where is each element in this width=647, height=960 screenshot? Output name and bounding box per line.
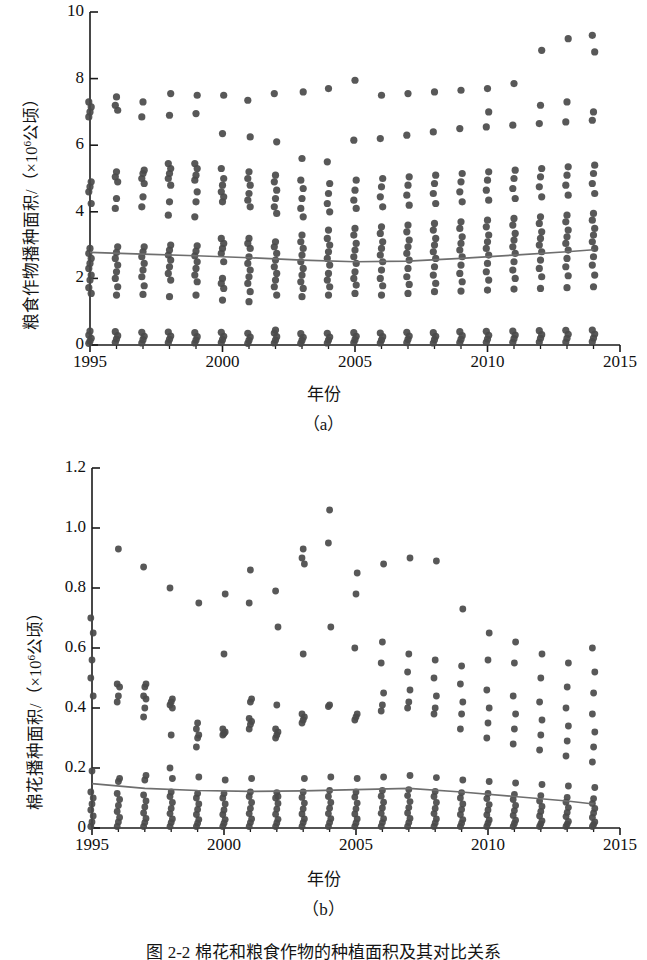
data-point: [565, 163, 572, 170]
data-point: [563, 98, 570, 105]
data-point: [431, 242, 438, 249]
data-point: [456, 225, 463, 232]
data-point: [195, 732, 202, 739]
data-point: [432, 255, 439, 262]
data-point: [433, 693, 440, 700]
data-point: [218, 329, 225, 336]
data-point: [325, 270, 332, 277]
data-point: [140, 792, 147, 799]
data-point: [218, 188, 225, 195]
data-point: [354, 800, 361, 807]
data-point: [248, 775, 255, 782]
data-point: [272, 726, 279, 733]
data-point: [378, 793, 385, 800]
data-point: [537, 235, 544, 242]
data-point: [432, 280, 439, 287]
data-point: [353, 805, 360, 812]
data-point: [379, 805, 386, 812]
data-point: [510, 741, 517, 748]
data-point: [167, 182, 174, 189]
data-point: [271, 203, 278, 210]
data-point: [218, 235, 225, 242]
data-point: [326, 180, 333, 187]
data-point: [85, 98, 92, 105]
data-point: [486, 630, 493, 637]
data-point: [431, 220, 438, 227]
data-point: [141, 167, 148, 174]
data-point: [350, 197, 357, 204]
data-point: [590, 210, 597, 217]
data-point: [166, 263, 173, 270]
data-point: [456, 125, 463, 132]
data-point: [115, 546, 122, 553]
data-point: [562, 182, 569, 189]
data-point: [326, 261, 333, 268]
data-point: [247, 266, 254, 273]
data-point: [510, 215, 517, 222]
data-point: [590, 795, 597, 802]
data-point: [300, 651, 307, 658]
data-point: [485, 168, 492, 175]
data-point: [273, 210, 280, 217]
data-point: [403, 329, 410, 336]
data-point: [483, 187, 490, 194]
data-point: [406, 173, 413, 180]
data-point: [430, 271, 437, 278]
data-point: [431, 263, 438, 270]
data-point: [562, 218, 569, 225]
data-point: [562, 263, 569, 270]
data-point: [273, 250, 280, 257]
data-point: [325, 85, 332, 92]
data-point: [89, 768, 96, 775]
x-tick-label: 2010: [462, 835, 514, 855]
data-point: [114, 808, 121, 815]
data-point: [143, 798, 150, 805]
data-point: [112, 255, 119, 262]
data-point: [113, 168, 120, 175]
data-point: [220, 92, 227, 99]
data-point: [326, 805, 333, 812]
data-point: [112, 328, 119, 335]
x-axis-title-a: 年份: [0, 380, 647, 405]
data-point: [353, 177, 360, 184]
data-point: [194, 92, 201, 99]
x-axis-title-b: 年份: [0, 865, 647, 890]
data-point: [351, 225, 358, 232]
data-point: [405, 786, 412, 793]
data-point: [166, 198, 173, 205]
data-point: [87, 807, 94, 814]
chart-panel-a: 粮食作物播种面积/（×106公顷） 年份 （a） 024681019952000…: [0, 0, 647, 440]
data-point: [456, 328, 463, 335]
data-point: [195, 774, 202, 781]
data-point: [271, 90, 278, 97]
data-point: [510, 237, 517, 244]
data-point: [298, 232, 305, 239]
data-point: [432, 235, 439, 242]
data-point: [139, 98, 146, 105]
data-point: [563, 705, 570, 712]
data-point: [430, 329, 437, 336]
data-point: [510, 80, 517, 87]
data-point: [165, 328, 172, 335]
data-point: [457, 240, 464, 247]
data-point: [275, 624, 282, 631]
data-point: [510, 258, 517, 265]
data-point: [141, 705, 148, 712]
data-point: [562, 118, 569, 125]
y-tick-label: 4: [20, 201, 84, 221]
data-point: [191, 329, 198, 336]
data-point: [354, 711, 361, 718]
data-point: [404, 222, 411, 229]
data-point: [326, 507, 333, 514]
data-point: [565, 192, 572, 199]
data-point: [326, 208, 333, 215]
data-point: [536, 265, 543, 272]
data-point: [432, 200, 439, 207]
data-point: [379, 238, 386, 245]
data-point: [245, 298, 252, 305]
data-point: [194, 278, 201, 285]
data-point: [377, 275, 384, 282]
data-point: [167, 90, 174, 97]
data-point: [272, 326, 279, 333]
data-point: [221, 807, 228, 814]
